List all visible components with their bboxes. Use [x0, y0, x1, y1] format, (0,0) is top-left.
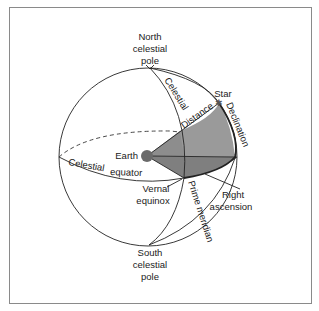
celestial-equator-label-1: Celestial: [68, 156, 106, 173]
earth-icon: [141, 150, 153, 162]
star-icon: ✱: [215, 98, 223, 108]
right-ascension-label-2: ascension: [210, 201, 253, 212]
celestial-arc-label: Celestial: [162, 75, 191, 112]
celestial-sphere-diagram: ✱ North celestial pole South celestial p…: [0, 0, 319, 311]
north-pole-label-2: celestial: [133, 43, 167, 54]
right-ascension-label-1: Right: [222, 189, 245, 200]
vernal-equinox-label-1: Vernal: [143, 183, 170, 194]
south-pole-label-1: South: [138, 247, 163, 258]
north-pole-label-1: North: [138, 31, 161, 42]
star-label: Star: [214, 88, 231, 99]
north-pole-label-3: pole: [141, 55, 159, 66]
celestial-equator-label-2: equator: [110, 166, 143, 178]
earth-label: Earth: [115, 150, 138, 161]
south-pole-label-2: celestial: [133, 259, 167, 270]
vernal-equinox-label-2: equinox: [136, 195, 170, 206]
south-pole-label-3: pole: [141, 271, 159, 282]
